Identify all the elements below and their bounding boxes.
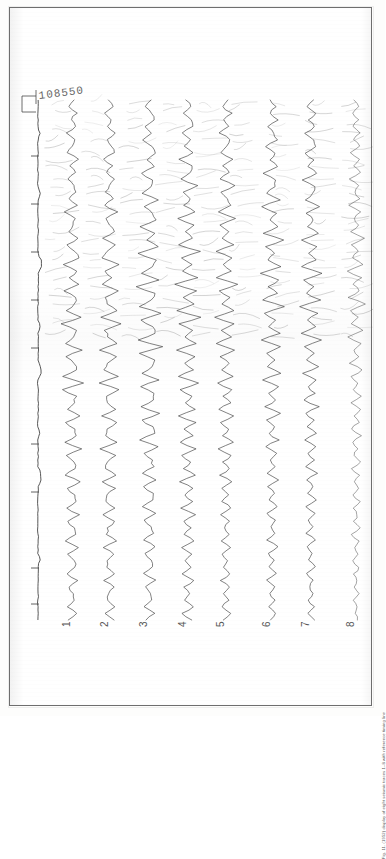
seismic-traces-svg bbox=[10, 8, 373, 707]
trace-label-8: 8 bbox=[345, 621, 356, 627]
seismic-trace-5 bbox=[215, 100, 238, 620]
trace-label-6: 6 bbox=[261, 621, 272, 627]
seismic-trace-3 bbox=[136, 100, 163, 620]
top-scan-artifacts bbox=[44, 94, 373, 340]
seismic-trace-1 bbox=[61, 100, 84, 620]
trace-label-3: 3 bbox=[138, 621, 149, 627]
record-frame-border: 108550 12345678 bbox=[9, 7, 372, 706]
seismic-plot-area bbox=[10, 8, 373, 707]
trace-label-7: 7 bbox=[300, 621, 311, 627]
trace-label-2: 2 bbox=[99, 621, 110, 627]
seismic-trace-6 bbox=[260, 100, 284, 620]
trace-label-4: 4 bbox=[177, 621, 188, 627]
seismic-trace-7 bbox=[300, 100, 322, 620]
trace-label-5: 5 bbox=[215, 621, 226, 627]
trace-label-1: 1 bbox=[61, 621, 72, 627]
figure-caption: Fig. 11. (1952) display of eight seismic… bbox=[381, 712, 386, 859]
seismic-trace-8 bbox=[347, 100, 365, 620]
reference-timing-trace bbox=[22, 90, 41, 620]
seismic-trace-2 bbox=[99, 100, 121, 620]
reference-line bbox=[37, 100, 41, 620]
seismic-trace-4 bbox=[175, 100, 201, 620]
